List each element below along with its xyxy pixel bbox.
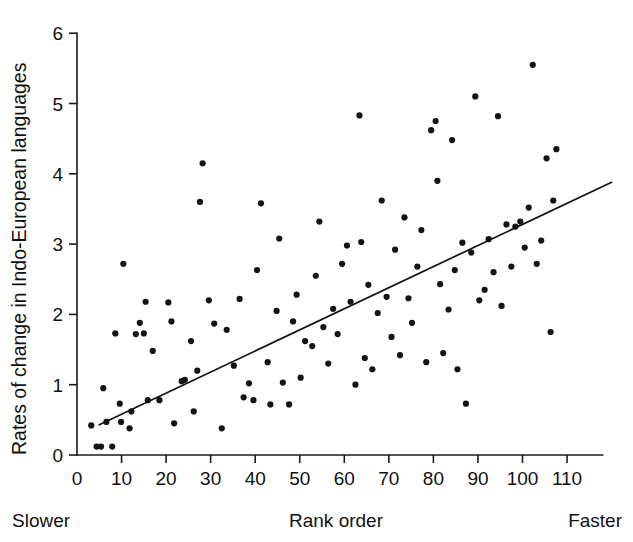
scatter-point [434, 178, 440, 184]
scatter-point [482, 287, 488, 293]
scatter-point [405, 295, 411, 301]
x-tick-label: 50 [289, 468, 310, 489]
scatter-point [437, 281, 443, 287]
scatter-point [356, 112, 362, 118]
y-tick-label: 2 [52, 304, 63, 325]
tick-marks [69, 33, 567, 463]
scatter-point [409, 320, 415, 326]
scatter-point [137, 320, 143, 326]
scatter-point [344, 242, 350, 248]
scatter-point [401, 214, 407, 220]
scatter-point [522, 245, 528, 251]
scatter-point [290, 318, 296, 324]
scatter-point [241, 394, 247, 400]
scatter-point [362, 355, 368, 361]
scatter-point [459, 240, 465, 246]
x-axis-title: Rank order [289, 510, 384, 531]
scatter-point [267, 401, 273, 407]
scatter-point [98, 443, 104, 449]
scatter-point [197, 199, 203, 205]
scatter-point [365, 282, 371, 288]
scatter-point [433, 118, 439, 124]
scatter-point [358, 239, 364, 245]
scatter-point [112, 330, 118, 336]
x-tick-label: 40 [245, 468, 266, 489]
scatter-point [237, 296, 243, 302]
scatter-point [133, 331, 139, 337]
scatter-point [339, 261, 345, 267]
scatter-point [219, 425, 225, 431]
scatter-point [369, 366, 375, 372]
scatter-point [258, 200, 264, 206]
y-tick-label: 3 [52, 234, 63, 255]
scatter-point [530, 62, 536, 68]
regression-line-path [99, 182, 611, 425]
x-tick-label: 60 [334, 468, 355, 489]
scatter-point [246, 380, 252, 386]
scatter-point [265, 359, 271, 365]
scatter-point [206, 297, 212, 303]
scatter-point [280, 379, 286, 385]
x-tick-label: 0 [72, 468, 83, 489]
scatter-plot-figure: Rates of change in Indo-European languag… [0, 0, 633, 542]
scatter-point [423, 359, 429, 365]
scatter-point [534, 261, 540, 267]
scatter-point [118, 419, 124, 425]
scatter-point [547, 329, 553, 335]
scatter-point [495, 113, 501, 119]
scatter-point [335, 331, 341, 337]
scatter-point [143, 299, 149, 305]
scatter-point [352, 382, 358, 388]
scatter-point [182, 377, 188, 383]
tick-labels: 01234560102030405060708090100110 [52, 23, 582, 489]
scatter-point [100, 385, 106, 391]
chart-canvas: Rates of change in Indo-European languag… [0, 0, 633, 542]
scatter-point [298, 375, 304, 381]
scatter-point [379, 197, 385, 203]
scatter-point [109, 443, 115, 449]
x-tick-label: 90 [467, 468, 488, 489]
scatter-point [508, 264, 514, 270]
scatter-point [309, 343, 315, 349]
scatter-point [414, 264, 420, 270]
scatter-point [392, 247, 398, 253]
scatter-point [250, 397, 256, 403]
scatter-point [231, 363, 237, 369]
scatter-point [375, 310, 381, 316]
axis-annotations: Slower Rank order Faster [12, 510, 623, 531]
scatter-point [384, 294, 390, 300]
y-tick-label: 1 [52, 375, 63, 396]
scatter-point [141, 330, 147, 336]
data-points [88, 62, 559, 450]
scatter-point [330, 306, 336, 312]
scatter-point [472, 93, 478, 99]
scatter-point [150, 348, 156, 354]
scatter-point [498, 303, 504, 309]
scatter-point [550, 197, 556, 203]
scatter-point [168, 318, 174, 324]
scatter-point [211, 320, 217, 326]
scatter-point [538, 237, 544, 243]
regression-line [99, 182, 611, 425]
scatter-point [200, 160, 206, 166]
scatter-point [191, 408, 197, 414]
scatter-point [454, 366, 460, 372]
scatter-point [449, 137, 455, 143]
scatter-point [445, 306, 451, 312]
scatter-point [320, 324, 326, 330]
axes [77, 33, 603, 455]
scatter-point [476, 297, 482, 303]
x-tick-label: 80 [423, 468, 444, 489]
scatter-point [302, 338, 308, 344]
x-tick-label: 100 [507, 468, 539, 489]
scatter-point [294, 292, 300, 298]
x-tick-label: 30 [200, 468, 221, 489]
y-tick-label: 6 [52, 23, 63, 44]
scatter-point [194, 368, 200, 374]
scatter-point [165, 299, 171, 305]
y-tick-label: 5 [52, 94, 63, 115]
x-tick-label: 10 [111, 468, 132, 489]
y-tick-label: 4 [52, 164, 63, 185]
y-axis-label-text: Rates of change in Indo-European languag… [8, 62, 30, 455]
scatter-point [397, 352, 403, 358]
